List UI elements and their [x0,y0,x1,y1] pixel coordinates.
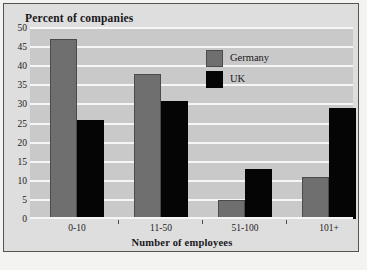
bar-germany-101+ [302,177,329,219]
x-axis-tickmark [286,220,287,224]
chart-frame: Percent of companies 0510152025303540455… [3,3,359,252]
y-axis-tick-label: 40 [5,61,27,71]
y-axis-tick-label: 25 [5,119,27,129]
y-axis-tick-labels: 05101520253035404550 [4,28,27,219]
bar-group [50,28,104,219]
bar-germany-11-50 [134,74,161,219]
bar-group [134,28,188,219]
bar-uk-0-10 [77,120,104,219]
x-axis-tick-label: 0-10 [68,223,85,233]
x-axis-tickmark [118,220,119,224]
y-axis-tick-label: 30 [5,99,27,109]
cropped-caption-sliver [10,258,260,265]
x-axis-title: Number of employees [4,237,360,248]
y-axis-tick-label: 0 [5,214,27,224]
bar-uk-101+ [329,108,356,219]
chart-title: Percent of companies [25,12,134,24]
legend-swatch-germany [206,50,223,67]
plot-area [30,28,353,219]
x-axis-tick-label: 11-50 [150,223,172,233]
y-axis-tick-label: 15 [5,157,27,167]
x-axis-tick-label: 101+ [319,223,339,233]
y-axis-tick-label: 45 [5,42,27,52]
y-axis-tick-label: 35 [5,80,27,90]
legend-label: UK [230,73,245,84]
y-axis-tick-label: 10 [5,176,27,186]
legend-label: Germany [230,52,269,63]
x-axis-baseline [30,217,353,219]
x-axis-tick-label: 51-100 [232,223,259,233]
legend-swatch-uk [206,71,223,88]
bar-germany-0-10 [50,39,77,219]
bar-chart-figure: Percent of companies 0510152025303540455… [0,0,367,270]
y-axis-tick-label: 20 [5,138,27,148]
bar-uk-11-50 [161,101,188,219]
y-axis-tick-label: 50 [5,23,27,33]
x-axis-tickmark [202,220,203,224]
bar-group [302,28,356,219]
bar-uk-51-100 [245,169,272,219]
y-axis-tick-label: 5 [5,195,27,205]
